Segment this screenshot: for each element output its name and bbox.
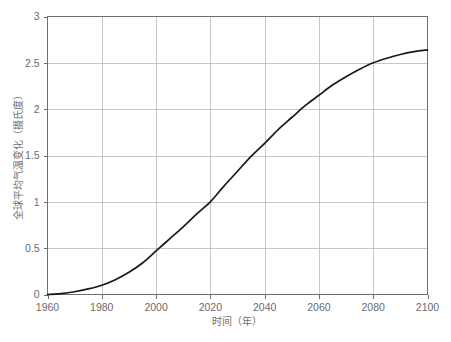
y-axis-title: 全球平均气温变化（摄氏度） [12, 90, 24, 220]
y-tick-label: 2 [34, 103, 40, 115]
y-tick-label: 0.5 [25, 242, 40, 254]
chart-container: 00.511.522.53 19601980200020202040206020… [0, 0, 451, 342]
y-tick-label: 1 [34, 196, 40, 208]
x-tick-labels: 19601980200020202040206020802100 [36, 301, 440, 313]
plot-frame [48, 17, 428, 295]
temperature-line-chart: 00.511.522.53 19601980200020202040206020… [0, 0, 451, 342]
x-tick-label: 2000 [144, 301, 168, 313]
y-tick-label: 3 [34, 10, 40, 22]
y-tick-label: 0 [34, 288, 40, 300]
y-tick-label: 2.5 [25, 57, 40, 69]
x-tick-label: 2100 [416, 301, 440, 313]
axis-tickmarks [44, 18, 429, 299]
x-tick-label: 2060 [307, 301, 331, 313]
x-tick-label: 2040 [253, 301, 277, 313]
x-axis-title: 时间（年） [212, 315, 262, 327]
x-tick-label: 2020 [199, 301, 223, 313]
x-tick-label: 1980 [90, 301, 114, 313]
y-gridlines [48, 64, 428, 249]
x-gridlines [103, 17, 374, 295]
x-tick-label: 2080 [362, 301, 386, 313]
y-tick-label: 1.5 [25, 149, 40, 161]
x-tick-label: 1960 [36, 301, 60, 313]
series-line-global-temp-change [48, 50, 428, 295]
y-tick-labels: 00.511.522.53 [25, 10, 40, 300]
